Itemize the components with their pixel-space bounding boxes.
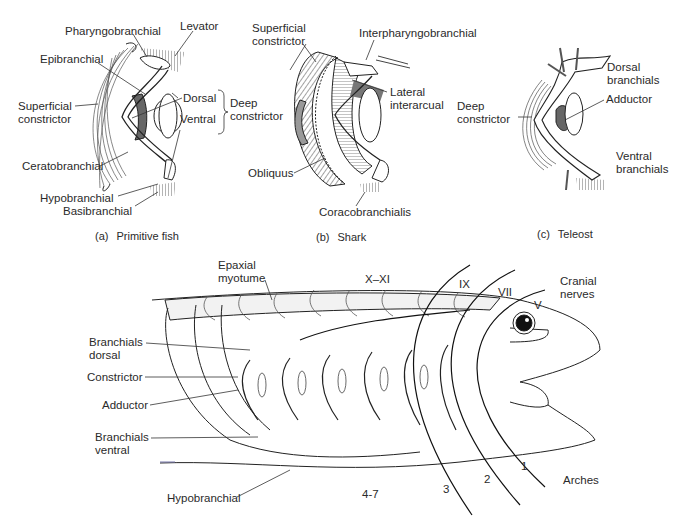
bottom-drawing: [145, 265, 600, 515]
nerve-label-v: V: [534, 299, 542, 312]
arch-label-2: 2: [484, 473, 490, 486]
label-deep-constrictor-c: Deep constrictor: [457, 100, 510, 126]
label-ventral: Ventral: [180, 113, 216, 126]
label-lateral-interarcual: Lateral interarcual: [390, 86, 444, 112]
label-dorsal-branchials: Dorsal branchials: [607, 61, 659, 87]
label-adductor-c: Adductor: [606, 93, 652, 106]
label-dorsal: Dorsal: [183, 92, 216, 105]
label-constrictor: Constrictor: [87, 371, 143, 384]
label-ceratobranchial: Ceratobranchial: [22, 160, 103, 173]
label-hypobranchial-a: Hypobranchial: [40, 192, 114, 205]
label-superficial-constrictor-b: Superficial constrictor: [252, 22, 306, 48]
nerve-label-vii: VII: [498, 286, 512, 299]
panel-c-drawing: [518, 48, 610, 190]
label-hypobranchial-bottom: Hypobranchial: [167, 492, 241, 505]
label-adductor: Adductor: [102, 399, 148, 412]
arch-label-3: 3: [443, 483, 449, 496]
label-ventral-branchials: Ventral branchials: [616, 150, 668, 176]
label-pharyngobranchial: Pharyngobranchial: [65, 25, 161, 38]
label-cranial-nerves: Cranial nerves: [560, 275, 596, 301]
label-obliquus: Obliquus: [248, 167, 293, 180]
label-arches: Arches: [563, 474, 599, 487]
label-epibranchial: Epibranchial: [40, 53, 103, 66]
label-basibranchial: Basibranchial: [63, 205, 132, 218]
caption-panel-c: (c)Teleost: [537, 228, 593, 240]
label-branchials-ventral: Branchials ventral: [95, 431, 149, 457]
caption-panel-a: (a)Primitive fish: [95, 230, 179, 242]
label-deep-constrictor-a: Deep constrictor: [230, 97, 283, 123]
nerve-label-x-xi: X–XI: [365, 273, 390, 286]
label-branchials-dorsal: Branchials dorsal: [89, 336, 143, 362]
label-levator: Levator: [180, 20, 218, 33]
panel-b-drawing: [290, 40, 410, 206]
label-interpharyngobranchial: Interpharyngobranchial: [359, 27, 477, 40]
label-coracobranchialis: Coracobranchialis: [319, 206, 411, 219]
nerve-label-ix: IX: [459, 278, 470, 291]
caption-panel-b: (b)Shark: [316, 231, 366, 243]
arch-label-1: 1: [521, 460, 527, 473]
arch-label-4-7: 4-7: [362, 488, 379, 501]
label-superficial-constrictor-a: Superficial constrictor: [18, 100, 72, 126]
label-epaxial-myotume: Epaxial myotume: [218, 259, 265, 285]
